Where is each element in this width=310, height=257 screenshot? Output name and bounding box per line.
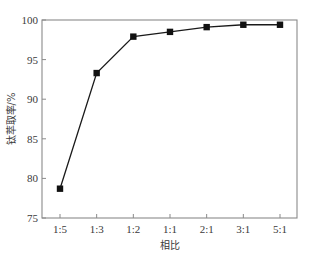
x-axis: 1:51:31:21:12:13:15:1	[53, 214, 287, 235]
square-marker	[130, 33, 136, 39]
plot-border	[42, 20, 297, 218]
x-tick-label: 1:1	[163, 223, 177, 235]
square-marker	[57, 185, 63, 191]
chart-container: 7580859095100 1:51:31:21:12:13:15:1 相比 钛…	[0, 0, 310, 257]
x-tick-label: 1:5	[53, 223, 68, 235]
line-chart: 7580859095100 1:51:31:21:12:13:15:1 相比 钛…	[0, 0, 310, 257]
x-tick-label: 1:3	[90, 223, 105, 235]
x-tick-label: 1:2	[126, 223, 140, 235]
y-axis-title: 钛萃取率/%	[5, 93, 17, 146]
square-marker	[167, 29, 173, 35]
square-marker	[240, 22, 246, 28]
data-series	[57, 22, 283, 192]
square-marker	[277, 22, 283, 28]
x-axis-title: 相比	[160, 239, 180, 251]
y-tick-label: 80	[27, 172, 39, 184]
y-tick-label: 90	[27, 93, 39, 105]
y-tick-label: 95	[27, 54, 39, 66]
x-tick-label: 2:1	[200, 223, 214, 235]
y-tick-label: 100	[22, 14, 39, 26]
plot-frame	[42, 20, 297, 218]
x-tick-label: 5:1	[273, 223, 287, 235]
square-marker	[203, 24, 209, 30]
series-line	[60, 25, 280, 189]
y-tick-label: 75	[27, 212, 39, 224]
y-tick-label: 85	[27, 133, 39, 145]
square-marker	[93, 70, 99, 76]
x-tick-label: 3:1	[236, 223, 250, 235]
